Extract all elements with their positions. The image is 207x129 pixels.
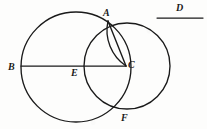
point-label-E: E <box>71 68 78 78</box>
point-label-F: F <box>121 113 128 123</box>
geometry-figure: A B C D E F <box>0 0 207 129</box>
point-label-A: A <box>103 8 110 18</box>
point-label-B: B <box>8 62 15 72</box>
figure-canvas <box>0 0 207 129</box>
point-label-C: C <box>128 60 135 70</box>
segment-AC <box>108 21 126 66</box>
segment-label-D: D <box>176 3 183 13</box>
